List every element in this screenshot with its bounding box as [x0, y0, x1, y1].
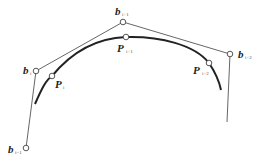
b-spline-diagram: b i+1 P i+1 b i P i P i+2 b i+2 b i−1 [0, 0, 260, 167]
label-p-i-plus-2: P i+2 [193, 64, 209, 76]
label-p-i: P i [55, 78, 65, 90]
control-point-b-i-minus-1 [23, 145, 29, 151]
svg-text:i: i [30, 71, 32, 76]
label-p-i-plus-1: P i+1 [117, 42, 133, 54]
label-b-i: b i [23, 64, 32, 76]
svg-text:i+1: i+1 [122, 12, 129, 17]
svg-text:i+2: i+2 [202, 71, 209, 76]
control-point-b-i-plus-1 [120, 19, 126, 25]
label-b-i-plus-1: b i+1 [115, 5, 129, 17]
curve-point-p-i-plus-2 [206, 60, 212, 66]
svg-text:b: b [23, 64, 29, 76]
svg-text:P: P [193, 64, 200, 76]
curve-point-p-i [49, 73, 55, 79]
svg-text:i+2: i+2 [245, 55, 252, 60]
svg-text:P: P [117, 42, 124, 54]
svg-text:i−1: i−1 [15, 150, 22, 155]
svg-text:b: b [115, 5, 121, 17]
label-b-i-plus-2: b i+2 [238, 48, 252, 60]
control-point-b-i [33, 68, 39, 74]
svg-text:P: P [55, 78, 62, 90]
svg-text:i: i [63, 85, 65, 90]
svg-text:b: b [238, 48, 244, 60]
control-point-b-i-plus-2 [227, 51, 233, 57]
label-b-i-minus-1: b i−1 [8, 143, 22, 155]
svg-text:b: b [8, 143, 14, 155]
curve-point-p-i-plus-1 [123, 34, 129, 40]
svg-text:i+1: i+1 [126, 49, 133, 54]
